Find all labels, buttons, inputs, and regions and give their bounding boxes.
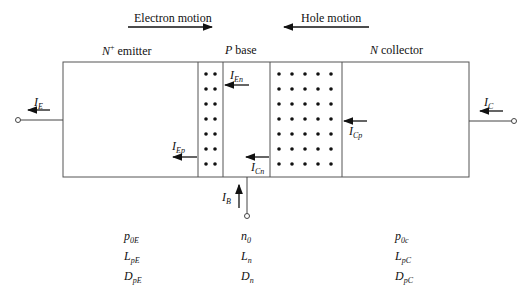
base-terminal[interactable] [245, 214, 250, 219]
icp-label: ICp [349, 125, 362, 140]
collector-param-p0: p0c [395, 230, 409, 245]
bjt-diagram [0, 0, 531, 290]
base-region-label: P base [225, 44, 257, 56]
emitter-param-p0: p0E [124, 230, 139, 245]
ie-label: IE [34, 96, 43, 111]
emitter-depletion-charges [204, 72, 217, 166]
emitter-region-label: N+ emitter [102, 44, 152, 57]
emitter-param-D: DpE [124, 270, 142, 285]
collector-region-label: N collector [370, 44, 423, 56]
collector-depletion-charges [277, 72, 333, 166]
base-param-D: Dn [241, 270, 254, 285]
ien-label: IEn [230, 69, 243, 84]
collector-param-L: LpC [395, 250, 411, 265]
collector-param-D: DpC [395, 270, 413, 285]
electron-motion-label: Electron motion [134, 12, 212, 24]
base-param-L: Ln [241, 250, 252, 265]
icn-label: ICn [251, 161, 264, 176]
base-param-n0: n0 [241, 230, 251, 245]
ic-label: IC [484, 96, 493, 111]
hole-motion-label: Hole motion [301, 12, 361, 24]
ib-label: IB [222, 191, 231, 206]
device-body [63, 62, 469, 177]
iep-label: IEp [172, 140, 185, 155]
emitter-terminal[interactable] [16, 118, 21, 123]
emitter-param-L: LpE [124, 250, 140, 265]
collector-terminal[interactable] [512, 119, 517, 124]
